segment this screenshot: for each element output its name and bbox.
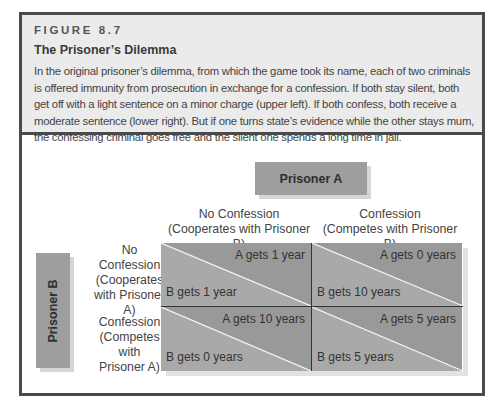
player-b-text: Prisoner B bbox=[46, 279, 60, 342]
row-header-line: with Prisoner A) bbox=[87, 288, 172, 318]
row-header-line: No bbox=[87, 243, 172, 258]
payoff-a: A gets 5 years bbox=[380, 312, 456, 326]
grid-divider-horizontal bbox=[161, 306, 463, 307]
figure-caption: FIGURE 8.7 The Prisoner’s Dilemma In the… bbox=[22, 15, 482, 135]
row-header-confession: Confession (Competes with Prisoner A) bbox=[87, 315, 172, 375]
player-a-label: Prisoner A bbox=[255, 162, 367, 195]
row-header-line: (Competes with bbox=[87, 330, 172, 360]
payoff-b: B gets 0 years bbox=[166, 350, 243, 364]
figure-title: The Prisoner’s Dilemma bbox=[34, 43, 176, 57]
row-header-line: Confession bbox=[87, 258, 172, 273]
figure-frame: FIGURE 8.7 The Prisoner’s Dilemma In the… bbox=[19, 12, 485, 396]
column-header-line: No Confession bbox=[164, 207, 314, 222]
player-a-text: Prisoner A bbox=[280, 172, 343, 186]
payoff-b: B gets 10 years bbox=[317, 285, 400, 299]
payoff-a: A gets 1 year bbox=[235, 248, 305, 262]
column-header-line: Confession bbox=[315, 207, 465, 222]
payoff-cell-no-confess: A gets 10 years B gets 0 years bbox=[161, 307, 311, 371]
payoff-cell-no-no: A gets 1 year B gets 1 year bbox=[161, 243, 311, 306]
figure-number: FIGURE 8.7 bbox=[34, 24, 123, 36]
payoff-b: B gets 1 year bbox=[166, 285, 237, 299]
payoff-a: A gets 10 years bbox=[222, 312, 305, 326]
player-b-label: Prisoner B bbox=[36, 253, 70, 368]
payoff-b: B gets 5 years bbox=[317, 350, 394, 364]
row-header-line: Prisoner A) bbox=[87, 360, 172, 375]
row-header-line: Confession bbox=[87, 315, 172, 330]
payoff-cell-confess-no: A gets 0 years B gets 10 years bbox=[312, 243, 462, 306]
payoff-cell-confess-confess: A gets 5 years B gets 5 years bbox=[312, 307, 462, 371]
payoff-a: A gets 0 years bbox=[380, 248, 456, 262]
row-header-line: (Cooperates bbox=[87, 273, 172, 288]
grid-divider-vertical bbox=[311, 243, 312, 371]
figure-description: In the original prisoner’s dilemma, from… bbox=[34, 63, 474, 146]
row-header-no-confession: No Confession (Cooperates with Prisoner … bbox=[87, 243, 172, 318]
payoff-matrix: A gets 1 year B gets 1 year A gets 0 yea… bbox=[161, 243, 463, 371]
